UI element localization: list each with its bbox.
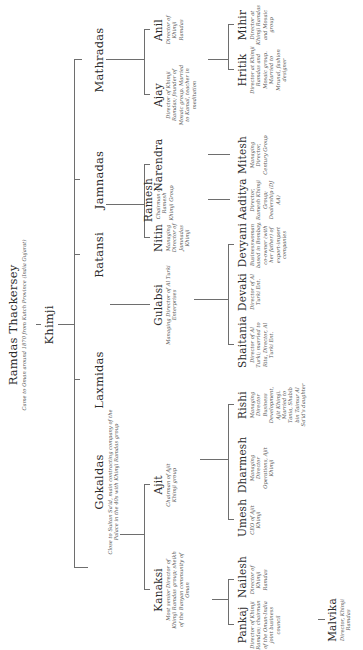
- node-nitin: Nitin Managing Director of Jamnadas Khim…: [152, 220, 191, 256]
- connector: [208, 199, 230, 200]
- node-name: Gokaldas: [92, 407, 106, 557]
- node-desc: Director of Al Turki Ent.: [249, 272, 262, 312]
- connector: [208, 154, 230, 155]
- node-desc: Director of Khimji Ramdas; founder of Mo…: [165, 62, 197, 128]
- node-name: Mathradas: [92, 28, 106, 93]
- node-pankaj: Pankaj Director of Khimji Ramdas; chairm…: [236, 600, 281, 650]
- node-malvika: Malvika Director, Khimji Ramdas: [326, 592, 352, 648]
- node-mitesh: Mitesh Managing Director, Century Group: [236, 135, 268, 175]
- node-name: Malvika: [326, 592, 338, 648]
- node-devaki: Devaki Director of Al Turki Ent.: [236, 272, 262, 312]
- node-desc: Close to Sultan Sa'id, main contracting …: [107, 407, 120, 557]
- connector: [228, 580, 229, 625]
- connector: [228, 245, 229, 345]
- node-shaitania: Shaitania Director of Al Turki; married …: [236, 322, 275, 368]
- node-umesh: Umesh CEO of Ajit Khimji: [236, 503, 262, 537]
- connector: [228, 69, 234, 70]
- connector: [228, 404, 234, 405]
- node-ramdas-thackersey: Ramdas Thackersey Came to Oman around 18…: [6, 195, 27, 455]
- family-tree-diagram: Ramdas Thackersey Came to Oman around 18…: [0, 0, 363, 650]
- connector: [228, 244, 234, 245]
- connector: [58, 324, 74, 325]
- connector: [144, 237, 150, 238]
- connector: [200, 459, 228, 460]
- connector: [208, 59, 228, 60]
- node-desc: Managing Director of Jamnadas Khimji: [165, 220, 191, 256]
- node-laxmidas: Laxmidas: [92, 351, 106, 408]
- node-desc: Director at Khimji Ramdas and Mosaic gro…: [249, 3, 275, 47]
- node-desc: Chairman of Ajit Khimji group: [165, 463, 178, 507]
- node-name: Mihir: [236, 3, 248, 47]
- node-narendra: Narendra: [152, 138, 164, 191]
- connector: [228, 344, 234, 345]
- node-kanaksi: Kanaksi Most senior Director of Khimji R…: [152, 550, 191, 630]
- node-name: Ajay: [152, 62, 164, 128]
- node-desc: Director at Khimji Ramdas and Mosaic gro…: [249, 46, 287, 94]
- node-name: Rishi: [236, 383, 248, 427]
- connector: [74, 379, 80, 380]
- connector: [228, 624, 234, 625]
- connector: [228, 519, 234, 520]
- connector: [212, 599, 228, 600]
- node-desc: Managing Director, Century Group: [249, 135, 268, 175]
- node-name: Shaitania: [236, 322, 248, 368]
- node-desc: Director of Khimji Ramdas; chairman of t…: [249, 600, 281, 650]
- node-hritik: Hritik Director at Khimji Ramdas and Mos…: [236, 46, 287, 94]
- connector: [36, 324, 41, 325]
- node-name: Devaki: [236, 272, 248, 312]
- node-name: Nitin: [152, 220, 164, 256]
- node-desc: Managing Director of Al Turki Enterprise…: [165, 260, 178, 350]
- connector: [74, 567, 88, 568]
- node-mathradas: Mathradas: [92, 28, 106, 93]
- connector: [144, 164, 150, 165]
- node-desc: Director of Khimji Ramdas: [249, 562, 268, 598]
- node-devyani: Devyani Businesswoman based in Bombay, c…: [236, 222, 287, 268]
- node-ajit: Ajit Chairman of Ajit Khimji group: [152, 463, 178, 507]
- node-name: Dharmesh: [236, 443, 248, 493]
- connector: [144, 484, 150, 485]
- node-nailesh: Nailesh Director of Khimji Ramdas: [236, 562, 268, 598]
- node-rishi: Rishi Managing Director Business Develop…: [236, 383, 307, 427]
- node-desc: Director of Al Turki; married to Rita, D…: [249, 322, 275, 368]
- node-name: Narendra: [152, 138, 164, 191]
- node-gokaldas: Gokaldas Close to Sultan Sa'id, main con…: [92, 407, 120, 557]
- node-name: Mitesh: [236, 135, 248, 175]
- node-name: Ratansi: [92, 232, 106, 278]
- connector: [144, 485, 145, 590]
- connector: [74, 254, 80, 255]
- node-ajay: Ajay Director of Khimji Ramdas; founder …: [152, 62, 197, 128]
- node-desc: Director, Khimji Ramdas: [339, 592, 352, 648]
- node-desc: Managing Director Operations, Ajit Khimj…: [249, 443, 275, 493]
- connector: [228, 405, 229, 520]
- node-gulabsi: Gulabsi Managing Director of Al Turki En…: [152, 260, 178, 350]
- connector: [144, 94, 150, 95]
- node-name: Gulabsi: [152, 260, 164, 350]
- connector: [120, 534, 144, 535]
- connector: [144, 29, 150, 30]
- connector: [144, 30, 145, 95]
- node-name: Hritik: [236, 46, 248, 94]
- node-desc: Came to Oman around 1870 from Kutch Prov…: [21, 195, 27, 455]
- node-name: Devyani: [236, 222, 248, 268]
- node-mihir: Mihir Director at Khimji Ramdas and Mosa…: [236, 3, 275, 47]
- node-anil: Anil Director of Khimji Ramdas: [152, 12, 184, 48]
- node-name: Pankaj: [236, 600, 248, 650]
- node-desc: Director, Ramesh Khimji Group; Dealershi…: [249, 180, 281, 220]
- node-desc: CEO of Ajit Khimji: [249, 503, 262, 537]
- node-desc: Most senior Director of Khimji Ramdas gr…: [165, 550, 191, 630]
- node-name: Ramdas Thackersey: [6, 195, 20, 455]
- connector: [106, 59, 144, 60]
- connector: [106, 204, 144, 205]
- connector: [228, 24, 234, 25]
- connector: [228, 25, 229, 70]
- node-desc: Director of Khimji Ramdas: [165, 12, 184, 48]
- connector: [318, 619, 325, 620]
- node-name: Khimji: [42, 305, 56, 344]
- node-name: Jamnadas: [92, 151, 106, 209]
- connector: [228, 579, 234, 580]
- node-aaditya: Aaditya Director, Ramesh Khimji Group; D…: [236, 180, 281, 220]
- node-name: Ajit: [152, 463, 164, 507]
- node-name: Kanaksi: [152, 550, 164, 630]
- node-jamnadas: Jamnadas: [92, 151, 106, 209]
- connector: [74, 60, 75, 568]
